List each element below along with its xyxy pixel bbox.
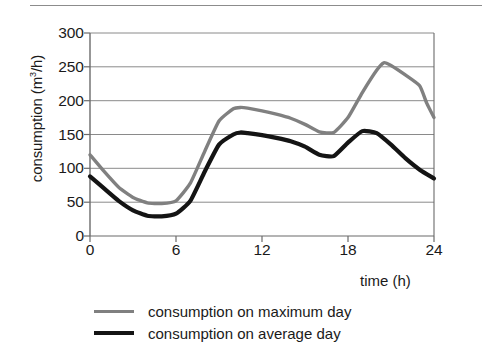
series-line-average-day	[90, 131, 434, 217]
x-tick-label-24: 24	[414, 241, 454, 259]
chart-figure: consumption (m3/h) 300 250 200 150 100 5…	[0, 0, 486, 358]
x-tick-label-18: 18	[328, 241, 368, 259]
y-axis	[84, 33, 90, 236]
x-tick-label-12: 12	[242, 241, 282, 259]
legend-swatch-average-day	[94, 331, 134, 335]
legend-item-average-day: consumption on average day	[94, 322, 414, 344]
x-tick-label-6: 6	[156, 241, 196, 259]
x-tick-label-0: 0	[70, 241, 110, 259]
chart-legend: consumption on maximum day consumption o…	[94, 300, 414, 344]
legend-swatch-maximum-day	[94, 310, 134, 313]
legend-label-maximum-day: consumption on maximum day	[148, 303, 351, 320]
legend-label-average-day: consumption on average day	[148, 325, 341, 342]
x-axis-title: time (h)	[360, 272, 411, 289]
legend-item-maximum-day: consumption on maximum day	[94, 300, 414, 322]
